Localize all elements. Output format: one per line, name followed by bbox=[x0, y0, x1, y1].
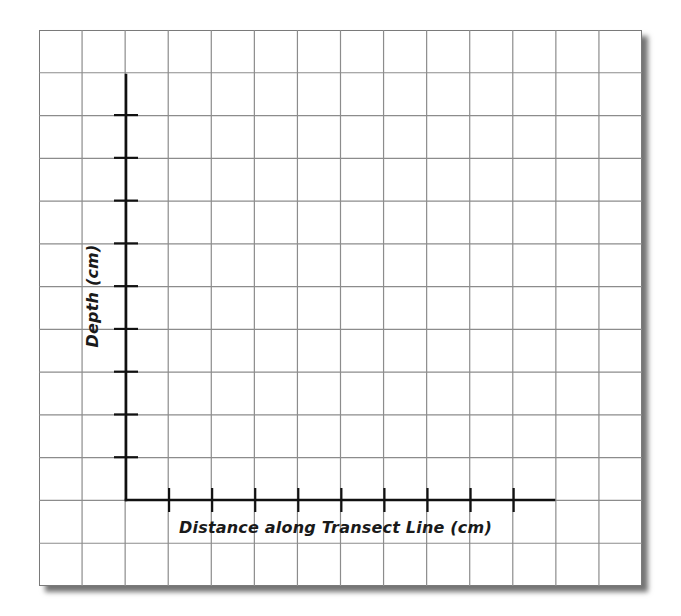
y-axis-label: Depth (cm) bbox=[83, 245, 102, 348]
x-axis-label: Distance along Transect Line (cm) bbox=[179, 518, 492, 537]
